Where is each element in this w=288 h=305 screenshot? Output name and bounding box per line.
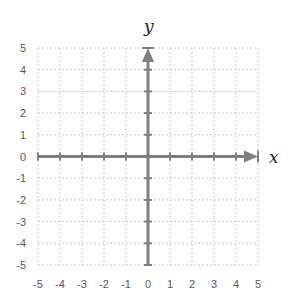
y-tick-label: 1 — [20, 129, 26, 141]
x-tick-label: -1 — [121, 278, 131, 290]
y-tick-label: -4 — [16, 237, 26, 249]
x-tick-label: -3 — [77, 278, 87, 290]
x-tick-label: 3 — [211, 278, 217, 290]
x-axis-arrow-icon — [244, 151, 258, 163]
x-tick-label: 5 — [255, 278, 261, 290]
y-tick-label: 4 — [20, 64, 26, 76]
x-tick-label: 0 — [145, 278, 151, 290]
y-tick-label: -5 — [16, 259, 26, 271]
x-tick-label: 4 — [233, 278, 239, 290]
x-tick-label: -2 — [99, 278, 109, 290]
y-tick-label: -2 — [16, 194, 26, 206]
x-tick-labels: -5-4-3-2-1012345 — [33, 278, 261, 290]
axis-ticks — [38, 70, 236, 265]
y-axis-arrow-icon — [142, 48, 154, 62]
y-tick-label: 3 — [20, 85, 26, 97]
y-tick-label: 5 — [20, 42, 26, 54]
coordinate-plane: -5-4-3-2-1012345 543210-1-2-3-4-5 x y — [0, 0, 288, 305]
y-axis-title: y — [143, 16, 154, 36]
y-tick-label: 2 — [20, 107, 26, 119]
y-tick-label: -3 — [16, 216, 26, 228]
y-tick-label: -1 — [16, 172, 26, 184]
x-tick-label: -5 — [33, 278, 43, 290]
x-tick-label: 2 — [189, 278, 195, 290]
x-axis-title: x — [269, 147, 279, 167]
x-tick-label: -4 — [55, 278, 65, 290]
x-tick-label: 1 — [167, 278, 173, 290]
y-tick-labels: 543210-1-2-3-4-5 — [16, 42, 26, 271]
y-tick-label: 0 — [20, 151, 26, 163]
